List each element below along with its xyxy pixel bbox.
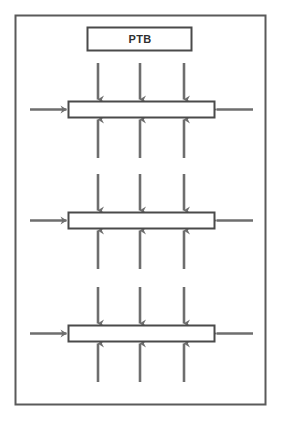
ptb-box: PTB xyxy=(88,28,192,51)
diagram-root: PTB xyxy=(0,0,281,423)
ptb-box-label: PTB xyxy=(128,33,151,45)
bar-3 xyxy=(69,326,215,342)
bar-1 xyxy=(69,102,215,118)
loading-diagram: PTB xyxy=(0,0,281,423)
bar-2 xyxy=(69,213,215,229)
